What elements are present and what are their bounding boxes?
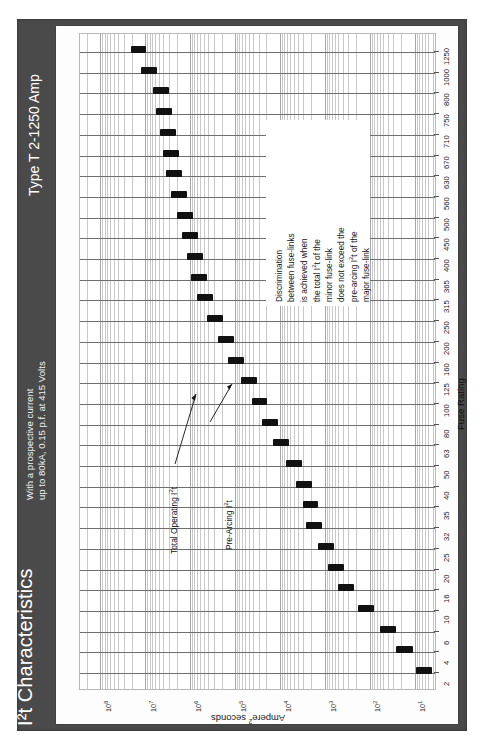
y-axis-tick-label: 101 <box>417 701 427 712</box>
x-axis-tick-mark <box>434 341 439 342</box>
x-axis-tick-mark <box>434 506 439 507</box>
x-axis-tick-label: 4 <box>442 661 451 665</box>
x-axis-tick-label: 2 <box>442 682 451 686</box>
x-axis-tick-label: 1250 <box>442 48 451 65</box>
y-axis-tick-label: 104 <box>283 701 293 712</box>
y-axis-tick-label: 108 <box>103 701 113 712</box>
x-axis-tick-mark <box>434 134 439 135</box>
x-axis-tick-mark <box>434 320 439 321</box>
x-axis-tick-mark <box>434 279 439 280</box>
x-axis-tick-label: 315 <box>442 301 451 314</box>
x-axis-tick-mark <box>434 196 439 197</box>
x-axis-tick-label: 250 <box>442 321 451 334</box>
x-axis-tick-label: 32 <box>442 533 451 541</box>
x-axis-tick-label: 25 <box>442 553 451 561</box>
x-axis-tick-label: 160 <box>442 363 451 376</box>
x-axis-tick-label: 20 <box>442 574 451 582</box>
x-axis-tick-mark <box>434 51 439 52</box>
x-axis-tick-mark <box>434 631 439 632</box>
x-axis-tick-label: 450 <box>442 239 451 252</box>
x-axis-tick-mark <box>434 155 439 156</box>
x-axis-tick-mark <box>434 486 439 487</box>
x-axis-tick-label: 40 <box>442 491 451 499</box>
x-axis-tick-mark <box>434 610 439 611</box>
x-axis-tick-mark <box>434 465 439 466</box>
x-axis-tick-label: 560 <box>442 197 451 210</box>
x-axis-tick-label: 100 <box>442 404 451 417</box>
page-title: I²t Characteristics <box>14 569 37 727</box>
x-axis-tick-mark <box>434 175 439 176</box>
chart-plot-area: Discriminationbetween fuse-linksis achie… <box>79 33 436 690</box>
document-type-label: Type T 2-1250 Amp <box>26 74 42 196</box>
x-axis-tick-label: 10 <box>442 615 451 623</box>
callout-leader-lines <box>80 34 435 689</box>
page-canvas: I²t Characteristics With a prospective c… <box>0 0 484 746</box>
x-axis-tick-label: 200 <box>442 342 451 355</box>
subtitle-line-2: up to 80kA, 0.15 p.f. at 415 Volts <box>36 361 47 500</box>
x-axis-tick-label: 63 <box>442 450 451 458</box>
x-axis-tick-label: 800 <box>442 94 451 107</box>
x-axis-title: Fuse Rating <box>455 378 466 430</box>
x-axis-tick-label: 50 <box>442 471 451 479</box>
x-axis-tick-label: 750 <box>442 114 451 127</box>
x-axis-tick-mark <box>434 113 439 114</box>
x-axis-tick-mark <box>434 651 439 652</box>
y-axis-tick-label: 106 <box>193 701 203 712</box>
x-axis-tick-mark <box>434 299 439 300</box>
x-axis-tick-mark <box>434 72 439 73</box>
y-axis-title: Ampere2 seconds <box>211 713 285 725</box>
x-axis-tick-mark <box>434 548 439 549</box>
x-axis-tick-mark <box>434 672 439 673</box>
x-axis-tick-mark <box>434 382 439 383</box>
x-axis-tick-mark <box>434 362 439 363</box>
x-axis-tick-label: 16 <box>442 595 451 603</box>
x-axis-tick-mark <box>434 589 439 590</box>
callout-total-operating: Total Operating I2t <box>168 487 179 554</box>
x-axis-tick-label: 630 <box>442 177 451 190</box>
y-axis-tick-label: 102 <box>372 701 382 712</box>
x-axis-tick-mark <box>434 237 439 238</box>
y-axis-tick-label: 107 <box>148 701 158 712</box>
x-axis-tick-mark <box>434 444 439 445</box>
x-axis-tick-label: 710 <box>442 135 451 148</box>
x-axis-tick-label: 125 <box>442 384 451 397</box>
x-axis-tick-mark <box>434 92 439 93</box>
x-axis-tick-label: 35 <box>442 512 451 520</box>
x-axis-tick-label: 365 <box>442 280 451 293</box>
x-axis-tick-mark <box>434 217 439 218</box>
page-subtitle: With a prospective current up to 80kA, 0… <box>24 361 48 500</box>
x-axis-tick-label: 670 <box>442 156 451 169</box>
x-axis-tick-mark <box>434 258 439 259</box>
x-axis-tick-label: 6 <box>442 640 451 644</box>
subtitle-line-1: With a prospective current <box>24 389 35 500</box>
x-axis-tick-label: 500 <box>442 218 451 231</box>
x-axis-tick-label: 80 <box>442 429 451 437</box>
x-axis-tick-label: 400 <box>442 259 451 272</box>
x-axis-tick-label: 1000 <box>442 69 451 86</box>
y-axis-tick-label: 103 <box>328 701 338 712</box>
callout-pre-arcing: Pre-Arcing I2t <box>223 500 234 550</box>
x-axis-tick-mark <box>434 403 439 404</box>
x-axis-tick-mark <box>434 569 439 570</box>
y-axis-tick-label: 105 <box>238 701 248 712</box>
x-axis-tick-mark <box>434 527 439 528</box>
x-axis-tick-mark <box>434 424 439 425</box>
